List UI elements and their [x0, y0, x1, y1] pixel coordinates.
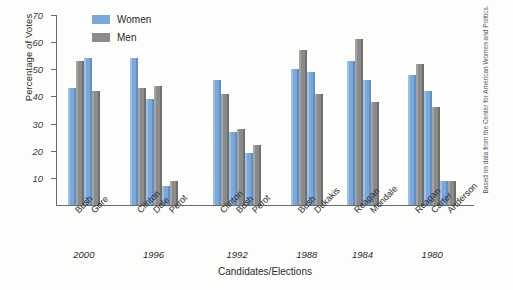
bar-women-carter	[424, 91, 432, 205]
candidate-bars-bush	[229, 15, 245, 205]
bar-group-1992	[195, 15, 279, 205]
y-tick-label: 40	[32, 91, 43, 102]
bar-group-1984	[335, 15, 391, 205]
year-label-1980: 1980	[422, 249, 443, 260]
candidate-bars-perot	[162, 15, 178, 205]
candidate-bars-clinton	[213, 15, 229, 205]
year-label-1988: 1988	[296, 249, 317, 260]
candidate-bars-bush	[291, 15, 307, 205]
y-tick-label: 30	[32, 118, 43, 129]
y-tick-label: 50	[32, 64, 43, 75]
bar-women-reagan	[347, 61, 355, 205]
bar-men-clinton	[138, 88, 146, 205]
bar-men-clinton	[221, 94, 229, 205]
legend-label-men: Men	[117, 32, 136, 43]
source-note: Based on data from the Center for Americ…	[482, 14, 489, 194]
year-label-1996: 1996	[143, 249, 164, 260]
bar-women-reagan	[408, 75, 416, 205]
bar-men-bush	[76, 61, 84, 205]
year-label-1992: 1992	[227, 249, 248, 260]
bar-men-perot	[253, 145, 261, 205]
bar-women-gore	[84, 58, 92, 205]
legend-swatch-women-icon	[92, 15, 110, 24]
legend: Women Men	[92, 14, 151, 50]
y-tick-label: 10	[32, 172, 43, 183]
candidate-bars-dukakis	[307, 15, 323, 205]
bar-men-reagan	[355, 39, 363, 205]
legend-label-women: Women	[117, 14, 151, 25]
candidate-bars-bush	[68, 15, 84, 205]
bar-men-gore	[92, 91, 100, 205]
legend-item-men: Men	[92, 32, 151, 43]
bar-group-1988	[279, 15, 335, 205]
bar-women-mondale	[363, 80, 371, 205]
candidate-bars-mondale	[363, 15, 379, 205]
bar-women-bush	[291, 69, 299, 205]
candidate-bars-carter	[424, 15, 440, 205]
bar-women-clinton	[213, 80, 221, 205]
bar-group-1980	[390, 15, 474, 205]
legend-swatch-men-icon	[92, 33, 110, 42]
y-tick-label: 20	[32, 145, 43, 156]
bar-women-bush	[68, 88, 76, 205]
candidate-bars-anderson	[440, 15, 456, 205]
bar-men-dukakis	[315, 94, 323, 205]
x-axis-year-labels: 200019961992198819841980	[56, 249, 474, 263]
bar-men-dole	[154, 86, 162, 205]
candidate-bars-perot	[245, 15, 261, 205]
candidate-bars-reagan	[347, 15, 363, 205]
candidate-bars-reagan	[408, 15, 424, 205]
bar-women-dukakis	[307, 72, 315, 205]
bar-men-reagan	[416, 64, 424, 205]
y-tick-label: 70	[32, 10, 43, 21]
bar-men-bush	[299, 50, 307, 205]
x-axis-title: Candidates/Elections	[56, 266, 474, 277]
year-label-2000: 2000	[73, 249, 94, 260]
legend-item-women: Women	[92, 14, 151, 25]
bar-women-clinton	[130, 58, 138, 205]
x-axis-tick-labels: BushGoreClintonDolePerotClintonBushPerot…	[56, 208, 474, 252]
vote-percentage-bar-chart: Percentage of Votes 10203040506070 Women…	[0, 0, 513, 290]
year-label-1984: 1984	[352, 249, 373, 260]
y-tick-label: 60	[32, 37, 43, 48]
